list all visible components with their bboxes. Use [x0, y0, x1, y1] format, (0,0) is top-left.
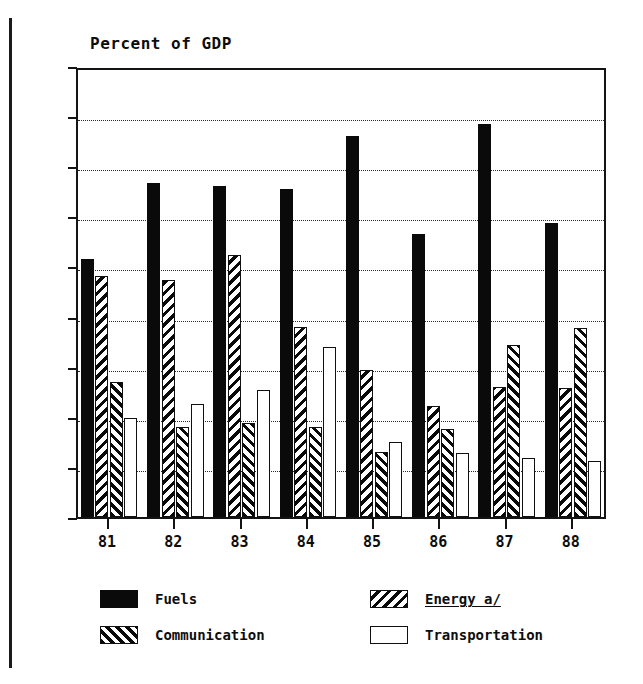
bar-communication-86: [441, 429, 454, 517]
bar-energy-82: [162, 280, 175, 517]
bar-energy-87: [493, 387, 506, 517]
bar-transportation-82: [191, 404, 204, 517]
legend-entry-transportation[interactable]: Transportation: [370, 620, 543, 650]
legend-swatch-transportation: [370, 626, 408, 644]
x-tick-label-84: 84: [276, 533, 336, 551]
bar-communication-87: [507, 345, 520, 517]
bar-fuels-81: [81, 259, 94, 517]
bar-energy-84: [294, 327, 307, 517]
x-tick-label-81: 81: [77, 533, 137, 551]
x-tick-mark: [571, 519, 573, 529]
legend-label-fuels: Fuels: [155, 591, 197, 607]
bar-energy-86: [427, 406, 440, 517]
x-tick-mark: [240, 519, 242, 529]
x-tick-label-88: 88: [541, 533, 601, 551]
bar-transportation-85: [389, 442, 402, 517]
x-tick-mark: [173, 519, 175, 529]
bar-fuels-86: [412, 234, 425, 517]
bar-transportation-81: [124, 418, 137, 517]
x-tick-label-86: 86: [408, 533, 468, 551]
bar-transportation-83: [257, 390, 270, 517]
bar-transportation-84: [323, 347, 336, 517]
bar-communication-85: [375, 452, 388, 517]
chart-title: Percent of GDP: [90, 34, 232, 53]
x-tick-mark: [372, 519, 374, 529]
x-tick-label-85: 85: [342, 533, 402, 551]
chart-legend: FuelsEnergy a/CommunicationTransportatio…: [76, 582, 606, 658]
x-tick-mark: [107, 519, 109, 529]
bar-fuels-88: [545, 223, 558, 517]
x-tick-label-83: 83: [210, 533, 270, 551]
bar-fuels-84: [280, 189, 293, 517]
legend-label-communication: Communication: [155, 627, 265, 643]
bar-communication-88: [574, 328, 587, 517]
bar-fuels-83: [213, 186, 226, 517]
x-tick-label-87: 87: [475, 533, 535, 551]
bar-energy-81: [95, 276, 108, 517]
legend-label-energy: Energy a/: [425, 591, 501, 607]
legend-swatch-energy: [370, 590, 408, 608]
bar-fuels-87: [478, 124, 491, 517]
bar-transportation-86: [456, 453, 469, 517]
plot-inner: [78, 70, 604, 517]
legend-entry-communication[interactable]: Communication: [100, 620, 265, 650]
bar-communication-81: [110, 382, 123, 517]
legend-entry-energy[interactable]: Energy a/: [370, 584, 501, 614]
legend-swatch-fuels: [100, 590, 138, 608]
bar-energy-88: [559, 388, 572, 517]
legend-entry-fuels[interactable]: Fuels: [100, 584, 197, 614]
gridline: [78, 120, 604, 121]
legend-label-transportation: Transportation: [425, 627, 543, 643]
bar-transportation-87: [522, 458, 535, 517]
bar-communication-84: [309, 427, 322, 517]
x-tick-mark: [505, 519, 507, 529]
x-tick-mark: [438, 519, 440, 529]
x-tick-label-82: 82: [143, 533, 203, 551]
x-tick-mark: [306, 519, 308, 529]
bar-fuels-82: [147, 183, 160, 517]
bar-fuels-85: [346, 136, 359, 517]
plot-area: [76, 68, 606, 519]
legend-swatch-communication: [100, 626, 138, 644]
bar-communication-83: [242, 423, 255, 517]
bar-communication-82: [176, 427, 189, 517]
bar-transportation-88: [588, 461, 601, 517]
gridline: [78, 170, 604, 171]
bar-energy-83: [228, 255, 241, 517]
bar-chart: Percent of GDP 0.00.20.40.60.81.01.21.41…: [0, 0, 643, 684]
bar-energy-85: [360, 370, 373, 517]
